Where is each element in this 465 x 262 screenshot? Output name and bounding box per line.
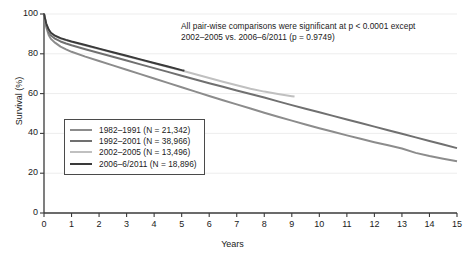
legend-label-2: 2002–2005 (N = 13,496) [99, 147, 190, 157]
x-tick-0: 0 [34, 219, 54, 229]
y-axis-label: Survival (%) [14, 66, 24, 136]
legend-item-1: 1992–2001 (N = 38,966) [70, 135, 197, 146]
annotation-line-1: All pair-wise comparisons were significa… [181, 21, 443, 32]
x-tick-6: 6 [199, 219, 219, 229]
x-axis-label: Years [0, 239, 465, 249]
x-tick-3: 3 [117, 219, 137, 229]
x-tick-8: 8 [254, 219, 274, 229]
legend-swatch-3 [70, 163, 92, 165]
significance-annotation: All pair-wise comparisons were significa… [181, 21, 443, 42]
chart-legend: 1982–1991 (N = 21,342)1992–2001 (N = 38,… [64, 119, 205, 175]
legend-swatch-2 [70, 151, 92, 153]
x-tick-5: 5 [172, 219, 192, 229]
y-tick-100: 100 [6, 8, 38, 18]
y-tick-0: 0 [6, 207, 38, 217]
x-tick-10: 10 [309, 219, 329, 229]
y-tick-80: 80 [6, 48, 38, 58]
legend-label-1: 1992–2001 (N = 38,966) [99, 136, 190, 146]
y-tick-60: 60 [6, 88, 38, 98]
x-tick-11: 11 [337, 219, 357, 229]
x-tick-15: 15 [447, 219, 465, 229]
x-tick-14: 14 [419, 219, 439, 229]
x-tick-7: 7 [227, 219, 247, 229]
legend-label-0: 1982–1991 (N = 21,342) [99, 125, 190, 135]
legend-label-3: 2006–6/2011 (N = 18,896) [99, 159, 197, 169]
x-tick-13: 13 [392, 219, 412, 229]
x-tick-1: 1 [62, 219, 82, 229]
y-tick-40: 40 [6, 127, 38, 137]
y-tick-20: 20 [6, 167, 38, 177]
annotation-line-2: 2002–2005 vs. 2006–6/2011 (p = 0.9749) [181, 32, 443, 43]
legend-swatch-0 [70, 129, 92, 131]
x-tick-12: 12 [364, 219, 384, 229]
legend-item-2: 2002–2005 (N = 13,496) [70, 147, 197, 158]
axis-lines [40, 13, 457, 217]
x-tick-9: 9 [282, 219, 302, 229]
legend-item-0: 1982–1991 (N = 21,342) [70, 124, 197, 135]
x-tick-4: 4 [144, 219, 164, 229]
survival-chart-figure: All pair-wise comparisons were significa… [0, 0, 465, 262]
x-tick-2: 2 [89, 219, 109, 229]
legend-item-3: 2006–6/2011 (N = 18,896) [70, 158, 197, 169]
legend-swatch-1 [70, 140, 92, 142]
